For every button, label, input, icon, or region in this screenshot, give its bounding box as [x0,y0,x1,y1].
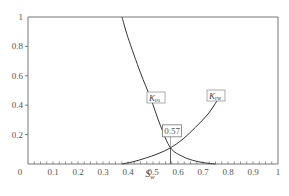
relative-permeability-chart: 0.20.40.60.81 00.10.20.30.40.50.60.70.80… [0,0,289,196]
y-tick-label: 0.8 [12,41,24,51]
x-tick-label: 0 [18,167,23,177]
y-axis-labels: 0.20.40.60.81 [12,12,24,140]
plot-frame [28,17,278,164]
x-tick-label: 0.4 [122,167,134,177]
x-tick-label: 0.7 [197,167,209,177]
label-kro: Kro [147,92,165,103]
label-krw: Krw [207,90,225,101]
x-tick-label: 1 [276,167,281,177]
svg-text:0.57: 0.57 [164,126,180,136]
y-tick-label: 0.6 [12,71,24,81]
curves [122,17,218,164]
x-tick-label: 0.2 [72,167,83,177]
x-tick-label: 0.3 [97,167,109,177]
y-tick-label: 0.2 [12,130,23,140]
x-tick-label: 0.1 [47,167,58,177]
curve-k-ro [122,17,216,164]
annotation-0-57: 0.57 [163,125,182,148]
y-tick-label: 0.4 [12,100,24,110]
y-tick-label: 1 [19,12,24,22]
x-tick-label: 0.9 [247,167,259,177]
x-tick-label: 0.8 [222,167,234,177]
x-tick-label: 0.6 [172,167,184,177]
